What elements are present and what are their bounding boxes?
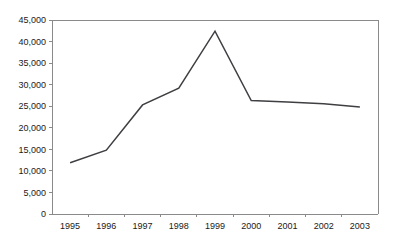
y-axis-tick-label: 30,000 [18, 80, 46, 90]
x-axis-tick-label: 1999 [205, 221, 225, 231]
x-axis-tick-label: 1995 [60, 221, 80, 231]
x-axis-label-group: 199519961997199819992000200120022003 [60, 221, 370, 231]
x-axis-tick-label: 2003 [350, 221, 370, 231]
x-axis-tick-label: 2002 [314, 221, 334, 231]
y-axis-tick-label: 0 [41, 209, 46, 219]
x-axis-tick-label: 1997 [133, 221, 153, 231]
line-chart: 05,00010,00015,00020,00025,00030,00035,0… [0, 0, 397, 248]
y-axis-tick-label: 35,000 [18, 58, 46, 68]
chart-background [0, 0, 397, 248]
y-axis-tick-label: 5,000 [23, 188, 46, 198]
y-axis-tick-label: 15,000 [18, 145, 46, 155]
y-axis-tick-label: 20,000 [18, 123, 46, 133]
y-axis-tick-label: 45,000 [18, 15, 46, 25]
x-axis-tick-label: 2001 [277, 221, 297, 231]
x-axis-tick-label: 2000 [241, 221, 261, 231]
x-axis-tick-label: 1998 [169, 221, 189, 231]
x-axis-tick-label: 1996 [96, 221, 116, 231]
y-axis-tick-label: 40,000 [18, 37, 46, 47]
y-axis-tick-label: 10,000 [18, 166, 46, 176]
chart-canvas: 05,00010,00015,00020,00025,00030,00035,0… [0, 0, 397, 248]
y-axis-tick-label: 25,000 [18, 101, 46, 111]
